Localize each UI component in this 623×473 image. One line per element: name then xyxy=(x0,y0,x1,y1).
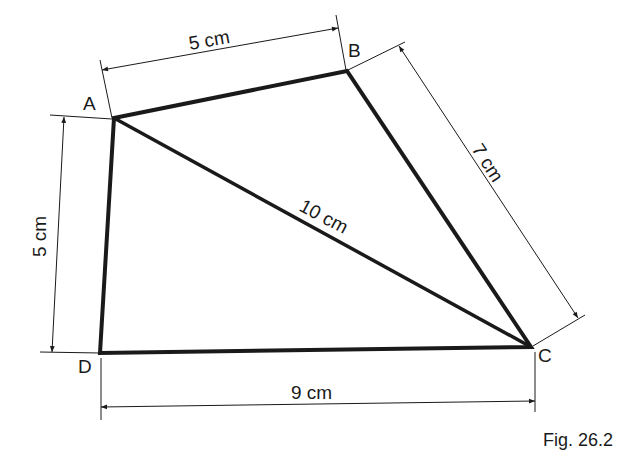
figure-caption: Fig. 26.2 xyxy=(543,430,613,450)
measure-bc: 7 cm xyxy=(468,140,508,186)
vertex-label-b: B xyxy=(348,40,361,61)
measure-ab: 5 cm xyxy=(187,26,231,54)
vertex-label-d: D xyxy=(78,356,92,377)
dim-AD xyxy=(52,117,64,352)
quadrilateral-diagram: A B C D 5 cm 7 cm 10 cm 5 cm 9 cm Fig. 2… xyxy=(0,0,623,473)
measure-dc: 9 cm xyxy=(291,382,332,403)
vertex-label-a: A xyxy=(83,93,96,114)
measure-ad: 5 cm xyxy=(29,216,50,257)
vertex-label-c: C xyxy=(538,345,552,366)
